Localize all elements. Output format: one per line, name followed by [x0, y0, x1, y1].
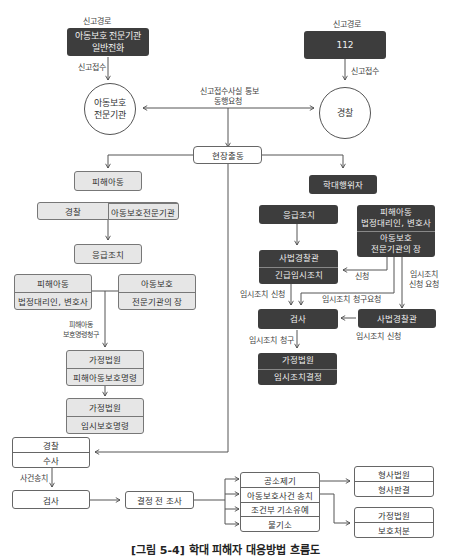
guardian-bottom: 법정대리인, 변호사 [15, 292, 91, 310]
requesters-top: 피해아동법정대리인, 변호사 [357, 205, 435, 231]
perp-prosecutor-label: 검사 [290, 313, 306, 325]
responder-agency: 아동보호전문기관 [109, 203, 179, 219]
family-court-protection-top: 가정법원 [355, 508, 433, 522]
left-receive-label: 신고접수 [78, 63, 106, 73]
family-court-temp-top: 가정법원 [67, 399, 143, 416]
police-investigation-box: 경찰 수사 [12, 437, 90, 468]
police-node: 경찰 [319, 87, 371, 139]
police-112-source: 112 [304, 31, 386, 59]
notify-line1: 신고접수사실 통보 [200, 87, 259, 96]
agency-line1: 아동보호 [94, 98, 126, 108]
victim-child-label: 피해아동 [75, 172, 141, 190]
family-court-decision-bottom: 임시조치결정 [258, 369, 337, 386]
referral-label: 사건송치 [20, 474, 48, 484]
requesters-bottom: 아동보호전문기관의 장 [357, 231, 435, 258]
judicial-police-box: 사법경찰관 [358, 309, 436, 328]
outcome-conditional-suspension: 조건부 기소유예 [241, 502, 319, 517]
right-route-label: 신고경로 [333, 20, 361, 30]
family-court-protection-box: 가정법원 보호처분 [354, 507, 434, 538]
pre-decision-label: 결정 전 조사 [126, 492, 193, 508]
notify-label: 신고접수사실 통보동행요청 [200, 87, 256, 107]
temp-apply-request-label: 임시조치신청 요청 [404, 270, 444, 290]
right-receive-label: 신고접수 [351, 67, 379, 77]
apply-label: 신청 [355, 272, 369, 282]
outcome-protection-referral: 아동보호사건 송치 [241, 487, 319, 502]
family-court-order-box: 가정법원 피해아동보호명령 [66, 350, 144, 386]
temp-apply-req-line2: 신청 요청 [409, 280, 440, 289]
requesters-box: 피해아동법정대리인, 변호사 아동보호전문기관의 장 [357, 205, 435, 257]
agency-head-top: 아동보호 [119, 275, 195, 292]
victim-emergency-label: 응급조치 [75, 245, 141, 263]
temp-apply-req-line1: 임시조치 [410, 270, 438, 279]
req-top-line1: 피해아동 [380, 207, 412, 217]
protection-request-line1: 피해아동 [69, 321, 93, 329]
agency-line2: 전문기관 [94, 110, 126, 120]
responders-box: 경찰 아동보호전문기관 [37, 202, 179, 220]
criminal-court-box: 형사법원 형사판결 [354, 466, 434, 497]
family-court-protection-bottom: 보호처분 [355, 522, 433, 537]
field-dispatch-box: 현장출동 [193, 146, 262, 164]
protection-request-label: 피해아동보호명령청구 [60, 320, 102, 340]
judicial-police-emergency-box: 사법경찰관 긴급임시조치 [259, 250, 338, 284]
source-112: 112 [336, 39, 353, 51]
source-line2: 일반전화 [92, 42, 124, 54]
pre-decision-box: 결정 전 조사 [125, 491, 194, 509]
criminal-court-top: 형사법원 [355, 467, 433, 481]
criminal-court-bottom: 형사판결 [355, 481, 433, 496]
guardian-top: 피해아동 [15, 275, 91, 292]
judicial-police-bottom: 긴급임시조치 [259, 267, 338, 285]
perp-emergency-label: 응급조치 [283, 209, 315, 221]
family-court-temp-bottom: 임시보호명령 [67, 416, 143, 434]
family-court-order-bottom: 피해아동보호명령 [67, 368, 143, 386]
perpetrator-box: 학대행위자 [309, 175, 377, 194]
req-bottom-line2: 전문기관의 장 [371, 244, 422, 254]
field-dispatch-label: 현장출동 [194, 147, 261, 163]
left-route-label: 신고경로 [83, 17, 111, 27]
agency-head-box: 아동보호 전문기관의 장 [118, 274, 196, 310]
agency-head-bottom: 전문기관의 장 [119, 292, 195, 310]
outcomes-box: 공소제기 아동보호사건 송치 조건부 기소유예 불기소 [240, 472, 320, 532]
guardian-box: 피해아동 법정대리인, 변호사 [14, 274, 92, 310]
family-court-temp-box: 가정법원 임시보호명령 [66, 398, 144, 434]
req-bottom-line1: 아동보호 [380, 233, 412, 243]
temp-apply-label: 임시조치 신청 [240, 290, 285, 300]
family-court-order-top: 가정법원 [67, 351, 143, 368]
outcome-indictment: 공소제기 [241, 473, 319, 487]
victim-emergency-box: 응급조치 [74, 244, 142, 264]
judicial-police-apply-label: 임시조치 신청 [356, 332, 401, 342]
protection-request-line2: 보호명령청구 [63, 331, 99, 339]
source-line1: 아동보호 전문기관 [75, 30, 142, 42]
police-investigation-top: 경찰 [13, 438, 89, 452]
judicial-police-label: 사법경찰관 [377, 313, 417, 325]
temp-claim-request-label: 임시조치 청구요청 [322, 295, 381, 305]
perp-prosecutor-box: 검사 [258, 309, 338, 329]
investigation-prosecutor-box: 검사 [12, 490, 90, 509]
req-top-line2: 법정대리인, 변호사 [361, 218, 430, 228]
notify-line2: 동행요청 [214, 97, 242, 106]
child-protection-phone-source: 아동보호 전문기관 일반전화 [67, 28, 149, 56]
temp-claim-label: 임시조치 청구 [249, 336, 294, 346]
perpetrator-label: 학대행위자 [323, 179, 363, 191]
victim-child-box: 피해아동 [74, 171, 142, 191]
responder-police: 경찰 [38, 203, 109, 219]
family-court-decision-box: 가정법원 임시조치결정 [258, 353, 337, 385]
investigation-prosecutor-label: 검사 [13, 491, 89, 508]
police-investigation-bottom: 수사 [13, 452, 89, 467]
figure-caption: [그림 5-4] 학대 피해자 대응방법 흐름도 [0, 541, 451, 557]
outcome-non-prosecution: 불기소 [241, 516, 319, 531]
judicial-police-top: 사법경찰관 [259, 250, 338, 267]
child-protection-agency-node: 아동보호전문기관 [84, 83, 136, 135]
family-court-decision-top: 가정법원 [258, 353, 337, 369]
police-label: 경찰 [337, 107, 353, 119]
perp-emergency-box: 응급조치 [259, 205, 338, 224]
